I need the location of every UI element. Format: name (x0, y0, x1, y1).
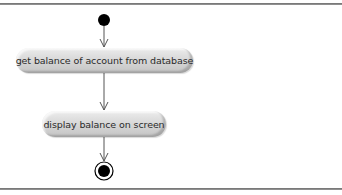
action-node-display-balance: display balance on screen (42, 111, 166, 137)
transition-arrow-activity-2-to-final (100, 137, 108, 161)
action-node-get-balance: get balance of account from database (16, 48, 193, 73)
final-node (95, 162, 113, 180)
action-label: get balance of account from database (16, 55, 194, 66)
transition-arrow-activity-1-to-activity-2 (100, 73, 108, 110)
transition-arrow-start-to-activity-1 (100, 26, 108, 47)
activity-diagram (0, 0, 342, 195)
action-label: display balance on screen (43, 119, 164, 130)
initial-node (98, 14, 110, 26)
